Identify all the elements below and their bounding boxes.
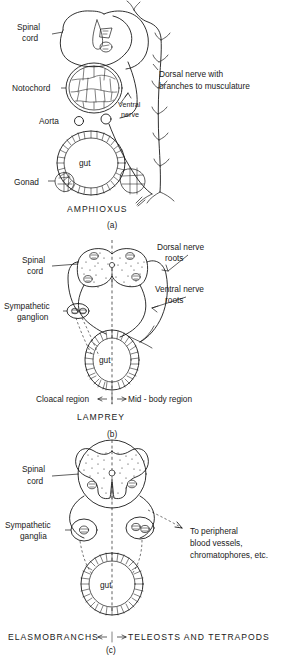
panel-elasmobranchs-teleosts: Spinal cord Sympathetic ganglia To perip… bbox=[5, 440, 270, 642]
label-sympathetic-c-line2: ganglia bbox=[20, 531, 47, 541]
lamprey-ventral-root-left bbox=[78, 285, 106, 334]
panel-letter-b: (b) bbox=[107, 429, 117, 439]
panel-amphioxus: Spinal cord Notochord Aorta gut Gonad Ve… bbox=[12, 1, 250, 230]
label-dorsal-nerve-a-line2: branches to musculature bbox=[159, 81, 250, 91]
label-gonad-a: Gonad bbox=[14, 177, 39, 187]
label-dorsal-roots-b-line2: roots bbox=[165, 253, 183, 263]
leader-spinal-cord-c bbox=[52, 474, 79, 476]
label-aorta-a: Aorta bbox=[39, 116, 59, 126]
arrow-ventral-nerve-a bbox=[125, 93, 131, 98]
amphioxus-notochord bbox=[66, 63, 122, 113]
lamprey-root-branch-right bbox=[140, 326, 154, 342]
label-peripheral-line2: blood vessels, bbox=[190, 538, 243, 548]
sympathetic-ganglion-right-c bbox=[126, 517, 154, 539]
label-sympathetic-c-line1: Sympathetic bbox=[5, 520, 51, 530]
amphioxus-cord-outline-left-top bbox=[63, 11, 104, 30]
lamprey-body-outline-right bbox=[140, 261, 167, 342]
label-spinal-cord-c-line1: Spinal bbox=[22, 464, 45, 474]
label-notochord-a: Notochord bbox=[12, 83, 51, 93]
panel-lamprey: Spinal cord Dorsal nerve roots Ventral n… bbox=[4, 240, 204, 439]
amphioxus-gut bbox=[57, 131, 125, 195]
label-sympathetic-b-line1: Sympathetic bbox=[4, 301, 50, 311]
arrow-ventral-roots-b bbox=[152, 306, 158, 312]
label-gut-b: gut bbox=[99, 355, 111, 365]
caption-teleosts-tetrapods: TELEOSTS AND TETRAPODS bbox=[128, 632, 270, 642]
label-ventral-roots-b-line2: roots bbox=[165, 295, 183, 305]
amphioxus-cord-outline-right bbox=[113, 16, 132, 53]
label-cloacal-region: Cloacal region bbox=[36, 394, 89, 404]
label-gut-c: gut bbox=[100, 580, 112, 590]
label-spinal-cord-a-line1: Spinal bbox=[17, 22, 40, 32]
label-ventral-roots-b-line1: Ventral nerve bbox=[155, 284, 204, 294]
amphioxus-gonad-left bbox=[55, 172, 74, 192]
tetrapod-gut bbox=[81, 553, 143, 615]
amphioxus-ventral-nerve-origin bbox=[101, 114, 111, 124]
lamprey-ventral-root-right bbox=[120, 285, 146, 337]
label-dorsal-nerve-a-line1: Dorsal nerve with bbox=[159, 69, 223, 79]
lamprey-spinal-cord bbox=[77, 249, 147, 288]
caption-elasmobranchs: ELASMOBRANCHS bbox=[8, 632, 99, 642]
amphioxus-ventral-nerve-lower bbox=[109, 124, 152, 194]
label-ventral-nerve-a-line1: Ventral bbox=[118, 100, 141, 109]
amphioxus-central-canal bbox=[93, 20, 103, 49]
label-spinal-cord-c-line2: cord bbox=[27, 476, 44, 486]
amphioxus-aorta bbox=[75, 117, 84, 126]
label-spinal-cord-b-line1: Spinal bbox=[22, 255, 45, 265]
panel-c-region-divider bbox=[98, 632, 126, 642]
label-ventral-nerve-a-line2: nerve bbox=[121, 110, 139, 119]
label-peripheral-line3: chromatophores, etc. bbox=[190, 550, 268, 560]
label-gut-a: gut bbox=[79, 158, 91, 168]
amphioxus-body-outline-top bbox=[104, 11, 148, 69]
ramus-left bbox=[70, 496, 84, 538]
lamprey-region-divider bbox=[98, 394, 126, 404]
label-peripheral-line1: To peripheral bbox=[190, 526, 238, 536]
caption-amphioxus: AMPHIOXUS bbox=[67, 204, 128, 214]
caption-lamprey: LAMPREY bbox=[77, 412, 125, 422]
label-spinal-cord-b-line2: cord bbox=[27, 266, 44, 276]
amphioxus-ganglion-cells bbox=[100, 28, 112, 52]
leader-spinal-cord-b bbox=[52, 264, 78, 266]
label-dorsal-roots-b-line1: Dorsal nerve bbox=[157, 242, 204, 252]
tetrapod-spinal-cord bbox=[76, 440, 149, 508]
lamprey-ganglion-dash-2 bbox=[82, 318, 99, 356]
label-midbody-region: Mid - body region bbox=[128, 394, 192, 404]
peripheral-arrowhead-c bbox=[175, 522, 182, 528]
label-spinal-cord-a-line2: cord bbox=[22, 33, 39, 43]
panel-letter-a: (a) bbox=[107, 220, 117, 230]
label-sympathetic-b-line2: ganglion bbox=[17, 312, 49, 322]
leader-dorsal-nerve-a bbox=[153, 64, 158, 70]
